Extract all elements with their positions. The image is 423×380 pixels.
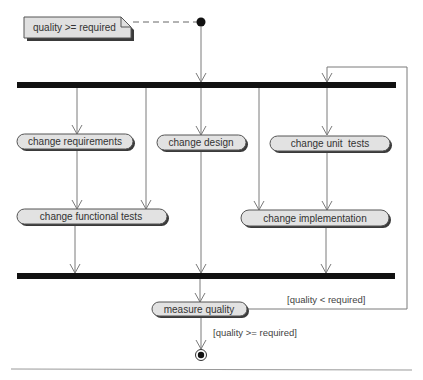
action-label: change requirements	[28, 136, 122, 147]
join-bar	[17, 273, 395, 279]
action-measure-quality[interactable]: measure quality	[152, 302, 249, 318]
guard-loop-label: [quality < required]	[287, 294, 365, 305]
action-label: measure quality	[164, 304, 235, 315]
action-label: change design	[168, 137, 233, 148]
action-change-design[interactable]: change design	[157, 135, 248, 152]
action-change-unit-tests[interactable]: change unit tests	[270, 136, 392, 153]
fork-bar	[17, 82, 396, 88]
note-text: quality >= required	[33, 22, 116, 33]
action-change-requirements[interactable]: change requirements	[17, 134, 135, 151]
activity-diagram: quality >= required	[0, 0, 423, 380]
final-node	[196, 350, 207, 361]
divider	[11, 369, 412, 370]
action-label: change functional tests	[40, 211, 142, 222]
note-quality-required: quality >= required	[24, 17, 134, 41]
action-change-functional-tests[interactable]: change functional tests	[17, 209, 169, 226]
action-change-implementation[interactable]: change implementation	[241, 210, 391, 228]
action-label: change unit tests	[291, 138, 369, 149]
guard-exit-label: [quality >= required]	[213, 327, 297, 338]
action-label: change implementation	[263, 213, 366, 224]
initial-node	[197, 18, 206, 27]
